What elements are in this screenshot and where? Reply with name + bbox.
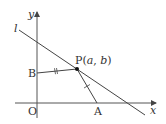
x-axis-label: x xyxy=(150,104,157,117)
point-p-label-prefix: P( xyxy=(75,54,87,67)
diagram: y x l O B A P(a, b) xyxy=(0,0,166,124)
point-p-label-close: ) xyxy=(107,54,111,67)
y-axis-label: y xyxy=(27,8,35,21)
point-p-label: P(a, b) xyxy=(75,54,112,67)
line-l-label: l xyxy=(14,22,18,35)
tick-mark-pb xyxy=(57,68,58,74)
point-p-label-sep: , xyxy=(93,54,100,67)
point-a-label: A xyxy=(93,105,103,118)
point-b-label: B xyxy=(28,67,36,80)
point-p-label-b: b xyxy=(100,54,107,67)
tick-mark-pb-2 xyxy=(55,68,56,74)
origin-label: O xyxy=(28,105,37,118)
point-p xyxy=(75,67,79,71)
